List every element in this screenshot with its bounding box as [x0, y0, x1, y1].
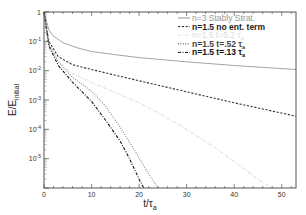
curve-3 — [44, 12, 158, 188]
y-tick-label: 1 — [37, 9, 41, 16]
axes: 01020304050110-110-210-310-410-5 — [29, 9, 296, 199]
legend: n=3 Stably Strat.n=1.5 no ent. termn=1.5… — [178, 13, 265, 58]
y-tick-label: 10-2 — [29, 65, 41, 74]
y-tick-label: 10-1 — [29, 36, 41, 45]
y-tick-label: 10-5 — [29, 153, 41, 162]
x-tick-label: 0 — [42, 191, 46, 198]
y-axis-label: E/Einitial — [7, 84, 20, 117]
x-tick-label: 50 — [278, 191, 286, 198]
x-tick-label: 20 — [135, 191, 143, 198]
energy-decay-chart: 01020304050110-110-210-310-410-5 n=3 Sta… — [0, 0, 306, 215]
curve-4 — [44, 12, 144, 188]
y-tick-label: 10-3 — [29, 95, 41, 104]
x-tick-label: 10 — [88, 191, 96, 198]
x-tick-label: 40 — [230, 191, 238, 198]
plot-frame — [44, 12, 296, 188]
data-curves — [44, 12, 296, 188]
x-axis-label: t/τa — [143, 198, 157, 211]
legend-label: n=1.5 t=.13 τa — [192, 47, 246, 58]
x-tick-label: 30 — [183, 191, 191, 198]
y-tick-label: 10-4 — [29, 124, 41, 133]
